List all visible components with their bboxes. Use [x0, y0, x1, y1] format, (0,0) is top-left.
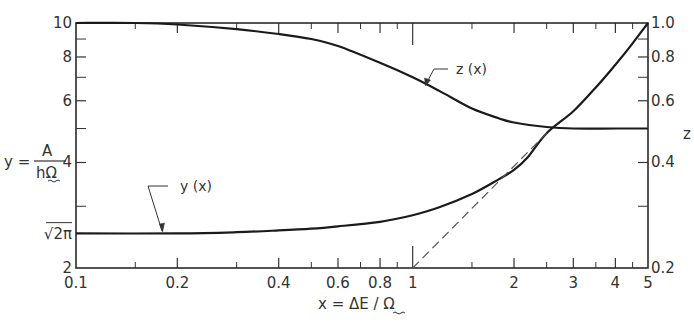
y-tick-label: √2π: [44, 225, 72, 243]
y-tick-label: 2: [62, 259, 72, 277]
x-tick-label: 3: [569, 274, 579, 292]
y-curve-label: y (x): [180, 178, 212, 194]
x-tick-label: 0.2: [165, 274, 189, 292]
x-tick-label: 0.6: [326, 274, 350, 292]
y-tick-label: 10: [53, 14, 72, 32]
chart: 0.10.20.40.60.81234510864√2π21.00.80.60.…: [0, 0, 694, 330]
arrow-icon: [160, 223, 165, 232]
axis-tick-labels: 0.10.20.40.60.81234510864√2π21.00.80.60.…: [44, 14, 675, 292]
x-tick-label: 1: [408, 274, 418, 292]
z-tick-label: 0.4: [651, 153, 675, 171]
y-axis-numerator: A: [42, 142, 53, 160]
tilde-mark: [393, 312, 405, 314]
curve-annotations: y (x)z (x): [148, 61, 487, 232]
x-axis-title: x = ΔE / Ω: [318, 295, 405, 314]
z-tick-label: 1.0: [651, 14, 675, 32]
z-tick-label: 0.2: [651, 259, 675, 277]
x-tick-label: 2: [509, 274, 519, 292]
y-tick-label: 6: [62, 92, 72, 110]
y-axis-title: y = A hΩ: [4, 142, 66, 182]
data-curves: [76, 23, 648, 268]
z-tick-label: 0.8: [651, 48, 675, 66]
z-curve: [76, 23, 648, 129]
plot-frame: [76, 23, 648, 268]
z-tick-label: 0.6: [651, 92, 675, 110]
x-tick-label: 0.8: [368, 274, 392, 292]
z-axis-title: z: [683, 125, 691, 143]
y-curve-leader: [148, 186, 168, 231]
y-tick-label: 8: [62, 48, 72, 66]
plot-border: [76, 23, 648, 268]
y-axis-denominator: hΩ: [36, 164, 57, 182]
x-tick-label: 4: [611, 274, 621, 292]
y-tick-label: 4: [62, 153, 72, 171]
y-axis-prefix: y =: [4, 153, 30, 171]
y-tick-label-sqrt2pi: √2π: [44, 223, 72, 243]
x-tick-label: 0.4: [267, 274, 291, 292]
asymptote-dashed-line: [413, 133, 547, 268]
axis-ticks: [76, 23, 648, 268]
x-axis-title-text: x = ΔE / Ω: [318, 295, 395, 313]
z-curve-label: z (x): [456, 61, 487, 77]
